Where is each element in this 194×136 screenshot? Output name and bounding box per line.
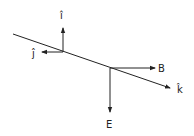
i-hat-label: î <box>59 10 63 21</box>
k-hat-label: k̂ <box>177 83 183 95</box>
b-label: B <box>158 63 165 74</box>
j-hat-label: ĵ <box>31 48 35 59</box>
em-wave-diagram: î ĵ B k̂ E <box>0 0 194 136</box>
e-label: E <box>106 119 112 130</box>
k-hat-axis-arrow <box>13 34 170 88</box>
